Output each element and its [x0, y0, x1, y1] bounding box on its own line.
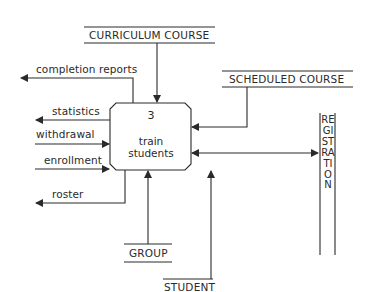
data-flow-diagram: 3 train students CURRICULUM COURSE SCHED…	[0, 0, 370, 292]
completion-reports-label: completion reports	[36, 64, 137, 75]
curriculum-course-label: CURRICULUM COURSE	[89, 30, 209, 41]
process-name-line1: train	[110, 135, 192, 147]
process-name-line2: students	[110, 147, 192, 159]
enrollment-label: enrollment	[44, 155, 102, 166]
withdrawal-label: withdrawal	[36, 129, 95, 140]
process-number: 3	[110, 110, 192, 121]
registration-label: REGISTRATION	[321, 115, 335, 191]
statistics-label: statistics	[52, 106, 100, 117]
scheduled-course-label: SCHEDULED COURSE	[229, 74, 344, 85]
scheduled-flow-arrow	[192, 87, 247, 127]
group-label: GROUP	[129, 248, 168, 259]
roster-label: roster	[52, 189, 83, 200]
student-label: STUDENT	[164, 282, 215, 292]
completion-reports-arrow	[21, 78, 133, 103]
